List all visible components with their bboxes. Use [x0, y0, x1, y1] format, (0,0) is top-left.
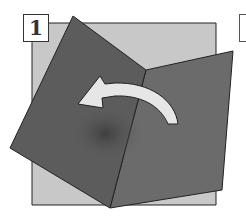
next-step-badge: [239, 14, 246, 42]
step-number: 1: [29, 16, 43, 40]
shadow: [65, 95, 155, 165]
step-number-badge: 1: [23, 14, 49, 42]
